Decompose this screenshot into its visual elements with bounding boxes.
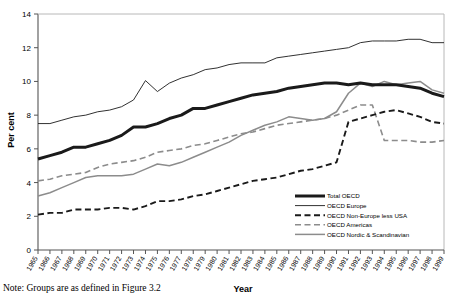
- y-tick-label: 4: [27, 179, 32, 188]
- y-axis-title: Per cent: [6, 112, 16, 148]
- legend-label: Total OECD: [327, 192, 360, 199]
- legend-label: OECD Europe: [327, 202, 367, 209]
- y-tick-label: 2: [27, 212, 32, 221]
- y-tick-label: 8: [27, 111, 32, 120]
- chart-container: 02468101214 1965196619671968196919701971…: [0, 0, 452, 302]
- legend-label: OECD Nordic & Scandinavian: [327, 231, 410, 238]
- x-axis-title: Year: [233, 284, 253, 294]
- legend-label: OECD Non-Europe less USA: [327, 212, 408, 219]
- figure-note: Note: Groups are as defined in Figure 3.…: [3, 283, 161, 293]
- unemployment-rate-line-chart: 02468101214 1965196619671968196919701971…: [0, 0, 452, 302]
- y-tick-label: 12: [22, 44, 31, 53]
- y-tick-label: 14: [22, 10, 31, 19]
- y-tick-label: 6: [27, 145, 32, 154]
- legend-label: OECD Americas: [327, 221, 372, 228]
- y-tick-label: 0: [27, 246, 32, 255]
- y-tick-label: 10: [22, 77, 31, 86]
